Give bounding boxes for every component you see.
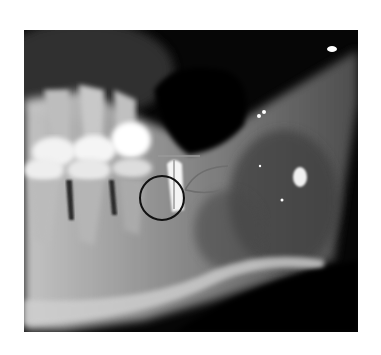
xray-canvas [24,30,358,332]
dental-xray-image [24,30,358,332]
